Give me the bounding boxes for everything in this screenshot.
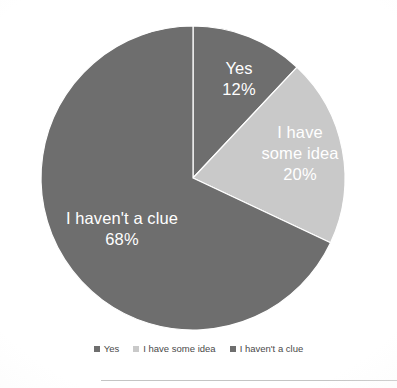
- legend-label-no-clue: I haven't a clue: [240, 344, 304, 354]
- pie-label-some-idea-name-line1: I have: [248, 122, 352, 143]
- legend-item-some-idea[interactable]: I have some idea: [133, 344, 215, 354]
- pie-label-no-clue-name: I haven't a clue: [42, 208, 202, 229]
- pie-label-yes-value: 12%: [196, 79, 282, 100]
- legend-label-yes: Yes: [104, 344, 120, 354]
- legend-swatch-icon-some-idea: [133, 346, 139, 352]
- pie-label-yes: Yes 12%: [196, 58, 282, 100]
- legend-swatch-icon-yes: [94, 346, 100, 352]
- pie-chart: Yes 12% I have some idea 20% I haven't a…: [0, 0, 397, 340]
- pie-label-yes-name: Yes: [196, 58, 282, 79]
- pie-label-some-idea-value: 20%: [248, 164, 352, 185]
- pie-label-no-clue-value: 68%: [42, 229, 202, 250]
- legend-item-yes[interactable]: Yes: [94, 344, 120, 354]
- legend-label-some-idea: I have some idea: [143, 344, 215, 354]
- bottom-divider-rule: [101, 380, 397, 381]
- legend-item-no-clue[interactable]: I haven't a clue: [230, 344, 304, 354]
- chart-legend: Yes I have some idea I haven't a clue: [0, 344, 397, 354]
- pie-label-some-idea: I have some idea 20%: [248, 122, 352, 185]
- chart-page: Yes 12% I have some idea 20% I haven't a…: [0, 0, 397, 388]
- pie-label-some-idea-name-line2: some idea: [248, 143, 352, 164]
- pie-label-no-clue: I haven't a clue 68%: [42, 208, 202, 250]
- legend-swatch-icon-no-clue: [230, 346, 236, 352]
